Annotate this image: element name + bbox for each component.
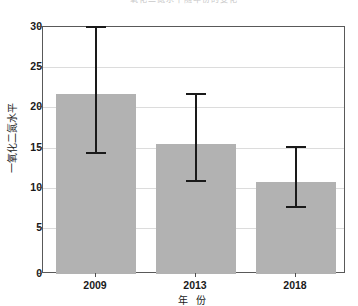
x-tick-mark [195,273,196,277]
chart-figure: 一氧化二氮水平随年份的变化 30 25 20 15 10 5 0 [0,0,358,306]
error-bar-cap-upper-2009 [86,26,106,28]
y-tick-label: 5 [2,222,42,233]
y-axis-title: 一氧化二氮水平 [4,78,19,198]
error-bar-2009 [95,26,97,154]
error-bar-2013 [195,93,197,182]
x-tick-mark [95,273,96,277]
error-bar-cap-upper-2013 [186,93,206,95]
error-bar-cap-lower-2018 [286,206,306,208]
error-bar-2018 [295,146,297,208]
y-tick-label: 0 [2,268,42,279]
error-bar-cap-upper-2018 [286,146,306,148]
error-bar-cap-lower-2013 [186,180,206,182]
x-tick-mark [295,273,296,277]
error-bar-cap-lower-2009 [86,152,106,154]
gridline [43,67,344,68]
y-tick-mark [38,273,42,274]
x-tick-label: 2018 [260,280,330,291]
x-axis-title: 年 份 [42,292,345,306]
plot-area [42,26,345,273]
x-tick-label: 2013 [160,280,230,291]
y-tick-label: 30 [2,21,42,32]
x-tick-label: 2009 [60,280,130,291]
chart-title: 一氧化二氮水平随年份的变化 [0,0,358,7]
y-tick-label: 25 [2,61,42,72]
